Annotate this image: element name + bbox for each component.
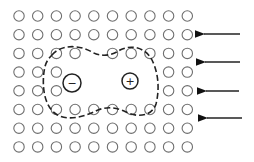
ion-charge-label: − xyxy=(67,77,76,90)
lattice-atom xyxy=(14,142,24,152)
diagram-canvas: −+ xyxy=(0,0,254,162)
atom-lattice xyxy=(14,11,193,152)
lattice-atom xyxy=(14,86,24,96)
lattice-atom xyxy=(182,86,192,96)
lattice-atom xyxy=(51,104,61,114)
lattice-atom xyxy=(163,48,173,58)
lattice-atom xyxy=(126,142,136,152)
lattice-atom xyxy=(89,123,99,133)
lattice-atom xyxy=(70,142,80,152)
lattice-atom xyxy=(14,48,24,58)
lattice-atom xyxy=(163,30,173,40)
lattice-diagram: −+ xyxy=(0,0,254,162)
lattice-atom xyxy=(70,11,80,21)
lattice-atom xyxy=(126,123,136,133)
lattice-atom xyxy=(107,104,117,114)
lattice-atom xyxy=(163,123,173,133)
lattice-atom xyxy=(126,104,136,114)
lattice-atom xyxy=(33,104,43,114)
lattice-atom xyxy=(14,11,24,21)
lattice-atom xyxy=(33,142,43,152)
lattice-atom xyxy=(51,142,61,152)
lattice-atom xyxy=(163,142,173,152)
lattice-atom xyxy=(33,123,43,133)
lattice-atom xyxy=(107,30,117,40)
incident-arrows xyxy=(204,34,242,118)
lattice-atom xyxy=(51,123,61,133)
lattice-atom xyxy=(145,11,155,21)
lattice-atom xyxy=(163,86,173,96)
ion-pair: −+ xyxy=(63,73,138,92)
lattice-atom xyxy=(182,104,192,114)
lattice-atom xyxy=(182,11,192,21)
lattice-atom xyxy=(33,30,43,40)
lattice-atom xyxy=(14,123,24,133)
lattice-atom xyxy=(126,30,136,40)
ion-charge-label: + xyxy=(125,75,134,88)
lattice-atom xyxy=(126,11,136,21)
lattice-atom xyxy=(14,30,24,40)
lattice-atom xyxy=(51,30,61,40)
lattice-atom xyxy=(70,30,80,40)
lattice-atom xyxy=(107,123,117,133)
lattice-atom xyxy=(33,86,43,96)
lattice-atom xyxy=(70,123,80,133)
lattice-atom xyxy=(182,67,192,77)
lattice-atom xyxy=(107,11,117,21)
lattice-atom xyxy=(33,11,43,21)
lattice-atom xyxy=(182,123,192,133)
lattice-atom xyxy=(14,104,24,114)
lattice-atom xyxy=(145,123,155,133)
lattice-atom xyxy=(14,67,24,77)
lattice-atom xyxy=(33,48,43,58)
lattice-atom xyxy=(89,30,99,40)
lattice-atom xyxy=(182,30,192,40)
lattice-atom xyxy=(163,67,173,77)
lattice-atom xyxy=(51,67,61,77)
lattice-atom xyxy=(107,142,117,152)
lattice-atom xyxy=(182,48,192,58)
lattice-atom xyxy=(145,142,155,152)
lattice-atom xyxy=(70,48,80,58)
lattice-atom xyxy=(145,30,155,40)
lattice-atom xyxy=(89,11,99,21)
negative-ion: − xyxy=(63,74,81,92)
lattice-atom xyxy=(163,11,173,21)
positive-ion: + xyxy=(122,73,138,89)
lattice-atom xyxy=(33,67,43,77)
lattice-atom xyxy=(182,142,192,152)
lattice-atom xyxy=(126,48,136,58)
lattice-atom xyxy=(163,104,173,114)
lattice-atom xyxy=(70,104,80,114)
lattice-atom xyxy=(89,142,99,152)
lattice-atom xyxy=(51,11,61,21)
lattice-atom xyxy=(51,86,61,96)
